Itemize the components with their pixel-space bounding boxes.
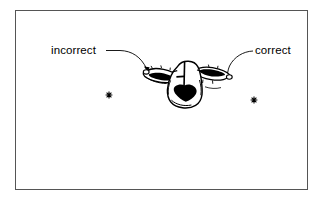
muzzle xyxy=(167,61,202,108)
animal-head-figure xyxy=(143,61,232,108)
leader-line-correct xyxy=(227,51,253,79)
callout-label-correct: correct xyxy=(255,44,291,56)
right-asterisk-marker xyxy=(251,97,258,104)
callout-label-incorrect: incorrect xyxy=(51,44,96,56)
leader-line-incorrect xyxy=(106,51,150,72)
left-asterisk-marker xyxy=(106,92,113,99)
figure-page: incorrect correct xyxy=(0,0,325,202)
right-cheek-fur-stroke xyxy=(205,87,221,89)
animal-head-drawing xyxy=(0,0,325,202)
